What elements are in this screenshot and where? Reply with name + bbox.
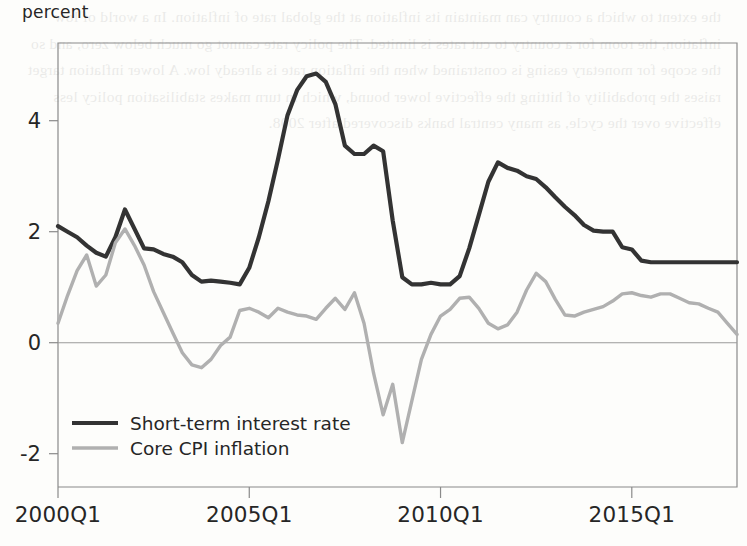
y-axis-ticks: 420-2 (20, 109, 58, 466)
x-axis-ticks: 2000Q12005Q12010Q12015Q1 (15, 487, 675, 527)
legend-label: Core CPI inflation (130, 438, 289, 459)
chart-legend: Short-term interest rateCore CPI inflati… (72, 413, 351, 459)
x-tick-label: 2010Q1 (397, 502, 484, 527)
y-tick-label: 0 (28, 331, 41, 355)
chart-figure: percent 420-2 2000Q12005Q12010Q12015Q1 S… (0, 0, 747, 546)
data-series-group (58, 74, 737, 443)
x-tick-label: 2005Q1 (206, 502, 293, 527)
y-tick-label: 2 (28, 220, 41, 244)
x-tick-label: 2015Q1 (589, 502, 676, 527)
legend-label: Short-term interest rate (130, 413, 351, 434)
y-tick-label: -2 (20, 442, 41, 466)
series-line-1 (58, 74, 737, 285)
x-tick-label: 2000Q1 (15, 502, 102, 527)
chart-canvas: 420-2 2000Q12005Q12010Q12015Q1 Short-ter… (0, 0, 747, 546)
y-tick-label: 4 (28, 109, 41, 133)
